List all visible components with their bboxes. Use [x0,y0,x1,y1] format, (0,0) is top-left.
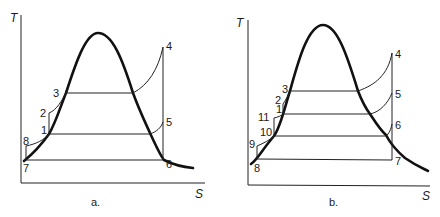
point-label-5: 5 [166,116,172,128]
point-label-8: 8 [254,162,260,174]
y-axis-label: T [10,11,19,25]
panel-b: T S b. 3 2 1 11 10 9 8 4 5 6 7 [236,16,430,208]
point-label-4: 4 [166,40,172,52]
point-label-1: 1 [41,124,47,136]
line-superheat-4 [358,53,392,91]
point-label-7: 7 [395,155,401,167]
point-label-5: 5 [395,88,401,100]
point-label-4: 4 [395,48,401,60]
x-axis [248,185,430,186]
line-superheat-4 [133,47,163,93]
point-label-1: 1 [276,103,282,115]
point-label-11: 11 [258,111,269,123]
panel-caption: b. [329,196,338,208]
x-axis-label: S [195,187,203,201]
panel-caption: a. [91,196,100,208]
point-label-6: 6 [166,158,172,170]
line-7-8 [257,159,392,160]
point-label-3: 3 [282,83,288,95]
saturation-dome [24,33,193,168]
point-label-10: 10 [260,126,272,138]
ts-diagrams: T S a. 3 2 1 8 7 4 5 6 T S b. [0,0,440,217]
point-label-8: 8 [23,135,29,147]
y-axis-label: T [236,16,245,30]
point-label-2: 2 [40,107,46,119]
point-label-9: 9 [249,138,255,150]
x-axis-label: S [422,189,430,203]
point-label-3: 3 [53,87,59,99]
line-superheat-5 [370,93,392,114]
panel-a: T S a. 3 2 1 8 7 4 5 6 [10,11,205,208]
point-label-6: 6 [395,119,401,131]
point-label-7: 7 [23,162,29,174]
line-superheat-5 [150,122,163,134]
